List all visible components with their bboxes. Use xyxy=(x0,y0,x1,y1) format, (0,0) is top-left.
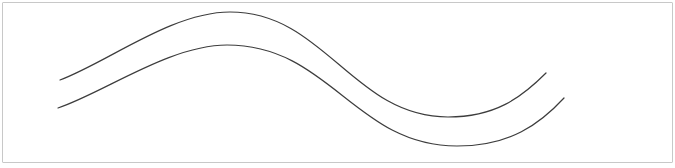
drawing-canvas xyxy=(0,0,675,168)
wave-band-drawing xyxy=(0,0,675,168)
wave-bottom-curve xyxy=(58,45,564,146)
wave-top-curve xyxy=(60,12,546,117)
